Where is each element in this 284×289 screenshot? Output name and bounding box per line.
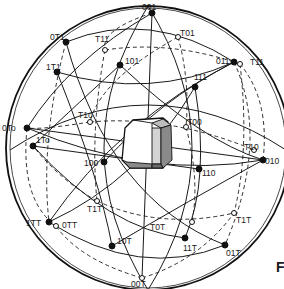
pole-label: 0TT — [62, 220, 77, 230]
pole-label: T0T — [150, 222, 165, 232]
panel-letter: F — [276, 259, 284, 275]
pole-label: 100 — [84, 158, 98, 168]
pole-filled-point — [231, 59, 237, 65]
pole-filled-point — [101, 159, 107, 165]
pole-label: 111 — [194, 72, 207, 82]
pole-label: 00T — [131, 279, 146, 289]
pole-label: T1T — [236, 215, 251, 225]
crystal-face-corner — [152, 164, 163, 168]
stereographic-projection-diagram: 0010T1T111011T1011T11T01111T1o0To1To100T… — [0, 0, 284, 289]
pole-hollow-point — [54, 224, 59, 229]
pole-filled-point — [109, 243, 115, 249]
pole-label: 1To — [36, 135, 50, 145]
pole-label: T00 — [187, 117, 202, 127]
pole-label: 110 — [202, 168, 216, 178]
pole-label: 010 — [265, 156, 279, 166]
crystal-face-side — [161, 125, 172, 168]
pole-label: T11 — [95, 34, 109, 44]
pole-label: T1o — [78, 110, 93, 120]
pole-filled-point — [192, 84, 198, 90]
pole-filled-point — [117, 62, 123, 68]
pole-label: 11T — [183, 243, 197, 253]
pole-label: 01T — [226, 248, 241, 258]
pole-hollow-point — [190, 220, 195, 225]
great-circle-dashed — [234, 64, 244, 213]
pole-filled-point — [182, 235, 188, 241]
great-circle-dashed — [95, 50, 105, 201]
pole-filled-point — [46, 219, 52, 225]
pole-hollow-point — [238, 62, 243, 67]
crystal-face-front-right — [152, 128, 161, 164]
great-circle-dashed — [105, 13, 152, 50]
pole-label: 1T1 — [46, 62, 61, 72]
pole-label: 0T1 — [50, 32, 65, 42]
pole-label: T01 — [180, 28, 195, 38]
pole-filled-point — [24, 125, 30, 131]
pole-label: 10T — [117, 236, 132, 246]
pole-label: T10 — [244, 142, 259, 152]
pole-label: 101 — [125, 56, 139, 66]
pole-hollow-point — [103, 48, 108, 53]
pole-label: 1TT — [26, 218, 41, 228]
pole-label: 001 — [142, 2, 156, 12]
pole-hollow-point — [95, 199, 100, 204]
pole-label: 0To — [2, 123, 16, 133]
pole-label: T1T — [87, 204, 102, 214]
pole-hollow-point — [88, 120, 93, 125]
pole-label: 011 — [216, 56, 230, 66]
crystal-model — [122, 118, 172, 168]
great-circle-solid — [57, 62, 234, 84]
great-circle-dashed — [27, 122, 90, 128]
pole-label: T11 — [250, 57, 264, 67]
